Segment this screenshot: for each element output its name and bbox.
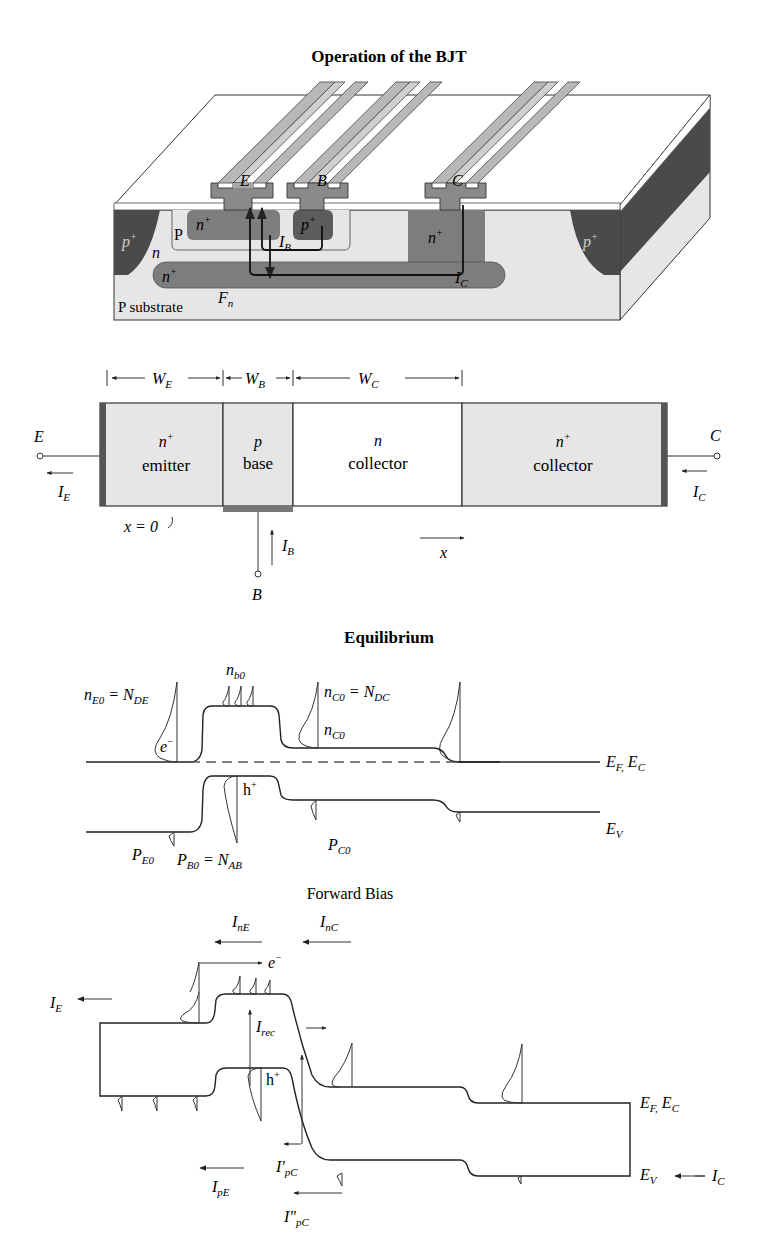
svg-text:EV: EV	[639, 1166, 658, 1186]
collector-region-label: collector	[348, 454, 408, 473]
svg-text:I'pC: I'pC	[275, 1158, 298, 1178]
svg-text:WB: WB	[245, 370, 265, 390]
x-axis-label: x	[439, 544, 447, 561]
svg-text:I"pC: I"pC	[283, 1208, 310, 1228]
emitter-terminal: E	[33, 428, 44, 445]
bjt-cross-section: WE WB WC n+ emitter p base n collector n…	[33, 370, 721, 603]
svg-text:nC0 = NDC: nC0 = NDC	[324, 683, 390, 703]
collector-doping-label: n	[374, 432, 382, 449]
collector-epi-label: n	[152, 244, 160, 261]
svg-text:Irec: Irec	[255, 1018, 275, 1038]
svg-text:PE0: PE0	[131, 846, 155, 866]
svg-text:IE: IE	[49, 994, 62, 1014]
svg-text:IC: IC	[692, 483, 706, 503]
svg-text:IB: IB	[281, 537, 294, 557]
base-region-label: base	[243, 454, 273, 473]
bjt-figure: Operation of the BJT	[0, 0, 778, 1258]
svg-text:PB0 = NAB: PB0 = NAB	[176, 851, 242, 871]
svg-text:e−: e−	[268, 952, 282, 971]
emitter-region	[100, 403, 223, 506]
emitter-terminal-label: E	[239, 172, 250, 189]
svg-text:IC: IC	[711, 1167, 725, 1187]
forward-bias-band-diagram: Forward Bias	[49, 885, 725, 1228]
emitter-region-label: emitter	[142, 456, 190, 475]
svg-text:nE0 = NDE: nE0 = NDE	[84, 686, 149, 706]
collector-terminal: C	[710, 427, 721, 444]
equilibrium-band-diagram: Equilibrium nE0 = NDE e− nb0 n	[84, 628, 646, 871]
figure-title: Operation of the BJT	[311, 47, 467, 66]
svg-text:InE: InE	[231, 913, 250, 933]
collector-terminal-label: C	[452, 172, 463, 189]
base-terminal: B	[252, 586, 262, 603]
equilibrium-title: Equilibrium	[344, 628, 434, 647]
svg-text:nb0: nb0	[226, 661, 246, 681]
svg-text:InC: InC	[319, 913, 339, 933]
svg-text:WE: WE	[152, 370, 172, 390]
svg-text:IE: IE	[57, 483, 70, 503]
base-terminal-label: B	[317, 172, 327, 189]
svg-text:nC0: nC0	[324, 721, 345, 741]
substrate-label: P substrate	[118, 299, 183, 315]
svg-text:EF, EC: EF, EC	[605, 753, 646, 773]
svg-text:PC0: PC0	[327, 836, 351, 856]
svg-text:e−: e−	[160, 736, 174, 755]
collector-plus-region	[462, 403, 667, 506]
forward-bias-title: Forward Bias	[307, 885, 394, 902]
collector-plus-region-label: collector	[533, 456, 593, 475]
svg-text:IpE: IpE	[211, 1178, 230, 1198]
bjt-3d-structure: E B C p+ p+ n+ p+ n+ n+ P n P substrate …	[114, 82, 710, 320]
svg-text:EF, EC: EF, EC	[639, 1094, 680, 1114]
svg-text:h+: h+	[266, 1069, 280, 1088]
svg-text:EV: EV	[605, 820, 624, 840]
base-well-label: P	[174, 226, 183, 243]
base-doping-label: p	[253, 433, 262, 451]
svg-text:WC: WC	[358, 370, 379, 390]
svg-text:h+: h+	[243, 779, 257, 798]
origin-label: x = 0	[123, 518, 158, 535]
